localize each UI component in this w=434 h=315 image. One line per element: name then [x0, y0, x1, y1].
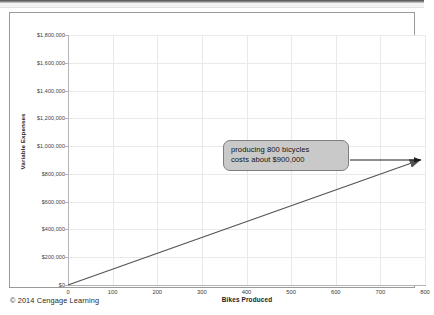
y-axis-tick-label: $1,800,000 — [37, 32, 65, 38]
gridline-vertical — [113, 35, 114, 285]
y-axis-tick-mark — [65, 285, 68, 286]
x-axis-tick-label: 800 — [420, 289, 430, 295]
y-axis-tick-label: $1,200,000 — [37, 115, 65, 121]
gridline-vertical — [380, 35, 381, 285]
gridline-vertical — [202, 35, 203, 285]
gridline-vertical — [157, 35, 158, 285]
x-axis-tick-label: 700 — [376, 289, 386, 295]
y-axis-tick-mark — [65, 35, 68, 36]
x-axis-tick-label: 0 — [66, 289, 69, 295]
annotation-callout: producing 800 bicycles costs about $900,… — [223, 140, 349, 171]
chart-figure-frame: $0$200,000$400,000$600,000$800,000$1,000… — [9, 12, 415, 288]
y-axis-title: Variable Expenses — [19, 97, 26, 187]
callout-line-2: costs about $900,000 — [231, 155, 341, 165]
y-axis-tick-mark — [65, 174, 68, 175]
x-axis-tick-label: 100 — [108, 289, 118, 295]
y-axis-tick-label: $1,400,000 — [37, 88, 65, 94]
x-axis-tick-label: 300 — [197, 289, 207, 295]
y-axis-tick-mark — [65, 91, 68, 92]
x-axis-tick-label: 500 — [286, 289, 296, 295]
y-axis-tick-labels: $0$200,000$400,000$600,000$800,000$1,000… — [22, 35, 65, 285]
y-axis-tick-mark — [65, 229, 68, 230]
y-axis-tick-mark — [65, 202, 68, 203]
gridline-vertical — [425, 35, 426, 285]
y-axis-line — [68, 35, 69, 286]
x-axis-title: Bikes Produced — [68, 296, 426, 303]
y-axis-tick-label: $800,000 — [42, 171, 65, 177]
y-axis-tick-label: $400,000 — [42, 226, 65, 232]
y-axis-tick-mark — [65, 118, 68, 119]
x-axis-tick-label: 400 — [242, 289, 252, 295]
y-axis-tick-label: $600,000 — [42, 199, 65, 205]
page-top-edge-shadow — [0, 3, 424, 8]
y-axis-tick-mark — [65, 257, 68, 258]
y-axis-tick-label: $1,600,000 — [37, 60, 65, 66]
y-axis-tick-mark — [65, 63, 68, 64]
x-axis-tick-label: 600 — [331, 289, 341, 295]
y-axis-tick-label: $1,000,000 — [37, 143, 65, 149]
y-axis-tick-mark — [65, 146, 68, 147]
x-axis-line — [68, 285, 426, 286]
y-axis-tick-label: $200,000 — [42, 254, 65, 260]
x-axis-tick-label: 200 — [152, 289, 162, 295]
copyright-credit: © 2014 Cengage Learning — [10, 296, 99, 305]
callout-line-1: producing 800 bicycles — [231, 145, 341, 155]
